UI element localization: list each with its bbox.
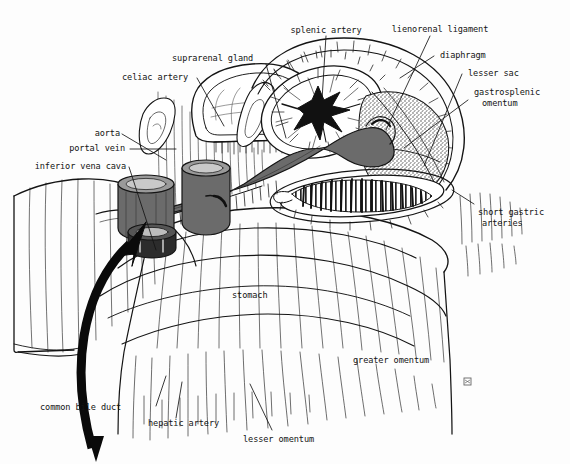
label-aorta: aorta xyxy=(30,128,120,139)
leader-diaphragm xyxy=(400,56,434,78)
suprarenal-gland xyxy=(139,98,175,154)
label-diaphragm: diaphragm xyxy=(440,50,486,61)
leader-hepatic-artery xyxy=(176,382,182,418)
label-common-bile-duct: common bile duct xyxy=(40,402,121,413)
label-hepatic-artery: hepatic artery xyxy=(148,418,219,429)
label-stomach: stomach xyxy=(232,290,268,301)
label-splenic-artery: splenic artery xyxy=(278,25,374,36)
pancreas-section xyxy=(268,164,455,230)
label-greater-omentum: greater omentum xyxy=(353,355,429,366)
label-inferior-vena-cava: inferior vena cava xyxy=(14,161,126,172)
label-short-gastric-arteries-line2: arteries xyxy=(482,218,523,229)
label-gastrosplenic-omentum-line2: omentum xyxy=(482,98,518,109)
epiploic-foramen-arrow xyxy=(81,222,146,462)
label-lienorenal-ligament: lienorenal ligament xyxy=(376,24,504,35)
short-gastric-arteries xyxy=(460,193,522,276)
label-suprarenal-gland: suprarenal gland xyxy=(172,53,253,64)
aorta xyxy=(182,160,230,235)
label-short-gastric-arteries-line1: short gastric xyxy=(478,207,544,218)
label-gastrosplenic-omentum-line1: gastrosplenic xyxy=(474,87,540,98)
label-celiac-artery: celiac artery xyxy=(122,72,188,83)
leader-lesser-omentum xyxy=(250,384,272,430)
label-portal-vein: portal vein xyxy=(20,143,125,154)
artist-signature xyxy=(464,378,471,385)
label-lesser-omentum: lesser omentum xyxy=(243,434,314,445)
figure-canvas: splenic artery lienorenal ligament diaph… xyxy=(0,0,570,464)
label-lesser-sac: lesser sac xyxy=(468,68,519,79)
leader-common-bile-duct xyxy=(156,376,166,406)
leader-short-gastric xyxy=(452,190,474,204)
